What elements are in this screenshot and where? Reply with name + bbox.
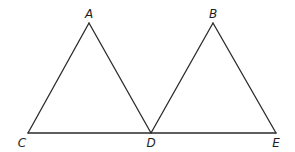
geometry-diagram: A B C D E <box>0 0 295 152</box>
segment-ac <box>28 23 89 133</box>
vertex-label-b: B <box>209 7 217 21</box>
vertex-label-e: E <box>272 136 280 150</box>
segment-be <box>213 23 276 133</box>
vertex-label-c: C <box>18 136 27 150</box>
segments <box>28 23 276 133</box>
vertex-label-a: A <box>84 7 93 21</box>
segment-ad <box>89 23 151 133</box>
vertex-label-d: D <box>146 136 155 150</box>
segment-bd <box>151 23 213 133</box>
